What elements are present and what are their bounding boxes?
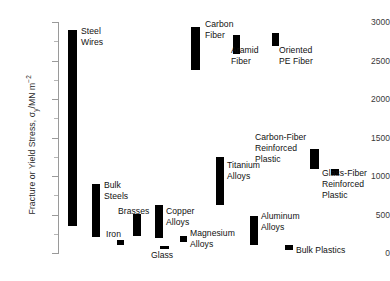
y-tick-major	[52, 138, 58, 139]
series-label-bulk: Bulk Steels	[104, 180, 128, 202]
bar-brasses	[133, 214, 141, 237]
series-label-titanium: Titanium Alloys	[227, 160, 260, 182]
y-tick-label: 0	[344, 249, 390, 258]
series-label-aramid: Aramid Fiber	[231, 45, 259, 67]
y-tick-label: 3000	[344, 18, 390, 27]
y-tick-label: 1500	[344, 133, 390, 142]
y-axis-symbol: σ	[27, 112, 37, 117]
y-axis-subscript: y	[32, 108, 39, 111]
bar-carbon-fiber	[191, 27, 200, 70]
y-axis-line	[58, 22, 59, 254]
series-label-brasses: Brasses	[118, 206, 149, 217]
series-label-copper: Copper Alloys	[166, 206, 195, 228]
series-label-oriented: Oriented PE Fiber	[279, 45, 313, 67]
bar-oriented-pe-fiber	[272, 33, 279, 46]
y-axis-superscript: −2	[25, 75, 32, 83]
series-label-glass: Glass	[151, 250, 173, 261]
y-tick-minor	[54, 195, 58, 196]
y-tick-major	[52, 99, 58, 100]
bar-iron	[117, 240, 124, 245]
y-tick-minor	[54, 118, 58, 119]
series-label-steel: Steel Wires	[81, 26, 103, 48]
bar-magnesium-alloys	[180, 236, 187, 242]
bar-bulk-plastics	[285, 245, 293, 250]
y-tick-minor	[54, 157, 58, 158]
fracture-yield-stress-chart: 050010001500200025003000 Fracture or Yie…	[0, 0, 390, 281]
series-label-glass-fiber: Glass-Fiber Reinforced Plastic	[322, 168, 367, 200]
series-label-aluminum: Aluminum Alloys	[261, 211, 300, 233]
y-axis-end-cap	[52, 22, 58, 23]
y-axis-end-cap	[52, 253, 58, 254]
y-axis-title: Fracture or Yield Stress, σy/MN m−2	[25, 45, 39, 245]
bar-bulk-steels	[92, 184, 100, 238]
y-tick-major	[52, 61, 58, 62]
series-label-iron: Iron	[106, 229, 121, 240]
y-tick-label: 2500	[344, 56, 390, 65]
bar-aluminum-alloys	[250, 216, 258, 245]
series-label-bulk-plastics: Bulk Plastics	[296, 245, 345, 256]
y-tick-minor	[54, 80, 58, 81]
y-tick-label: 500	[344, 210, 390, 219]
bar-steel-wires	[68, 30, 77, 226]
series-label-carbon: Carbon Fiber	[205, 19, 234, 41]
y-tick-major	[52, 176, 58, 177]
bar-copper-alloys	[155, 205, 163, 237]
y-tick-label: 2000	[344, 95, 390, 104]
y-tick-minor	[54, 41, 58, 42]
series-label-carbon-fiber: Carbon-Fiber Reinforced Plastic	[255, 132, 306, 164]
y-tick-minor	[54, 234, 58, 235]
bar-carbon-fiber-reinforced-plastic	[310, 149, 319, 169]
bar-titanium-alloys	[216, 157, 224, 206]
bar-glass	[160, 246, 169, 249]
series-label-magnesium: Magnesium Alloys	[190, 228, 235, 250]
y-tick-major	[52, 215, 58, 216]
